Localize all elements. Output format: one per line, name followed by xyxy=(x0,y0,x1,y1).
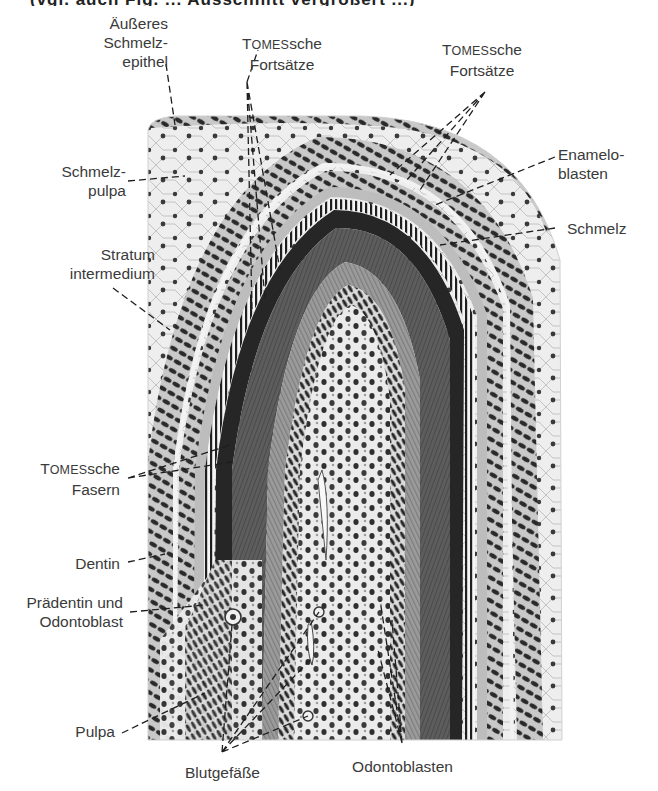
label-tomes-fortsaetze-right: TOMESsche Fortsätze xyxy=(432,40,532,80)
label-blutgefaesse: Blutgefäße xyxy=(165,763,280,782)
label-dentin: Dentin xyxy=(40,554,120,573)
label-enameloblasten: Enamelo- blasten xyxy=(558,145,624,183)
label-odontoblasten: Odontoblasten xyxy=(340,757,465,776)
label-tomes-fortsaetze-left: TOMESsche Fortsätze xyxy=(232,34,332,74)
label-tomes-fasern: TOMESsche Fasern xyxy=(20,459,120,499)
label-aeusseres-schmelzepithel: Äußeres Schmelz- epithel xyxy=(88,14,168,71)
label-stratum-intermedium: Stratum intermedium xyxy=(40,245,155,283)
label-pulpa: Pulpa xyxy=(40,722,115,741)
tissue-block xyxy=(140,110,570,750)
label-schmelzpulpa: Schmelz- pulpa xyxy=(36,162,126,200)
label-schmelz: Schmelz xyxy=(567,219,626,238)
tooth-germ-figure: (vgl. auch Fig. ... Ausschnitt vergrößer… xyxy=(0,0,658,791)
label-praedentin-odontoblast: Prädentin und Odontoblast xyxy=(10,593,123,631)
histology-illustration xyxy=(0,0,658,791)
